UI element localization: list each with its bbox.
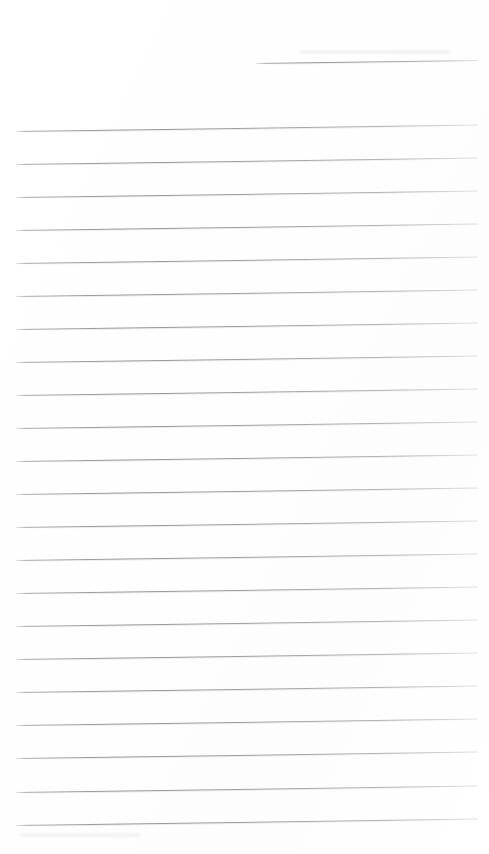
ruled-line xyxy=(16,422,478,429)
ruled-line xyxy=(16,786,478,793)
ruled-line xyxy=(16,356,478,363)
ruled-line xyxy=(16,587,478,594)
ruled-line xyxy=(16,752,478,759)
ruled-line xyxy=(16,686,478,693)
ruled-line xyxy=(16,521,478,528)
ruled-line xyxy=(16,224,478,231)
ruled-line xyxy=(16,158,478,165)
ruled-line xyxy=(16,488,478,495)
ruled-line xyxy=(16,125,478,132)
ruled-line xyxy=(16,819,478,826)
ruled-line xyxy=(16,191,478,198)
ruled-line xyxy=(16,455,478,462)
ruled-lines-layer xyxy=(0,0,489,854)
ruled-line xyxy=(16,389,478,396)
ruled-line xyxy=(16,323,478,330)
ruled-line xyxy=(16,719,478,726)
ruled-line xyxy=(16,257,478,264)
scanned-page xyxy=(0,0,489,854)
ruled-line xyxy=(16,290,478,297)
ruled-line-partial xyxy=(256,60,478,64)
ruled-line xyxy=(16,653,478,660)
ruled-line xyxy=(16,620,478,627)
ruled-line xyxy=(16,554,478,561)
